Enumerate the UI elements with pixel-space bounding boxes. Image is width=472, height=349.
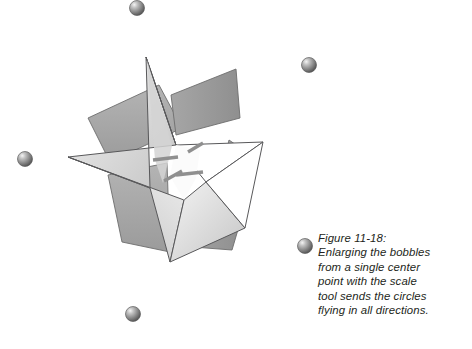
bobble-bottom xyxy=(126,307,141,322)
bobble-caption xyxy=(298,239,313,254)
bobble-top xyxy=(130,1,145,16)
caption-line-1: Figure 11-18: xyxy=(318,231,464,245)
caption-line-4: point with the scale xyxy=(318,274,464,288)
caption-line-5: tool sends the circles xyxy=(318,289,464,303)
caption-line-3: from a single center xyxy=(318,260,464,274)
caption-line-2: Enlarging the bobbles xyxy=(318,245,464,259)
bobble-upper-right xyxy=(302,58,317,73)
slab-upper-right xyxy=(171,69,240,135)
figure-caption: Figure 11-18: Enlarging the bobbles from… xyxy=(318,231,464,317)
bobble-left xyxy=(18,152,33,167)
figure-page: Figure 11-18: Enlarging the bobbles from… xyxy=(0,0,472,349)
caption-line-6: flying in all directions. xyxy=(318,303,464,317)
